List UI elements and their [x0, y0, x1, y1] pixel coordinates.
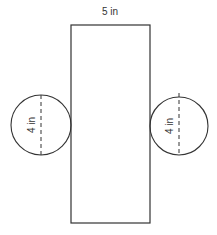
- left-circle-diameter-label: 4 in: [26, 117, 37, 133]
- left-base-circle: 4 in: [11, 95, 71, 155]
- cylinder-net-diagram: 5 in 4 in 4 in: [0, 0, 217, 235]
- right-circle-diameter-label: 4 in: [164, 118, 175, 134]
- rectangle-width-label: 5 in: [102, 6, 118, 17]
- lateral-surface-rectangle: [71, 25, 150, 223]
- right-base-circle: 4 in: [150, 93, 208, 155]
- right-circle-outline: [150, 97, 208, 155]
